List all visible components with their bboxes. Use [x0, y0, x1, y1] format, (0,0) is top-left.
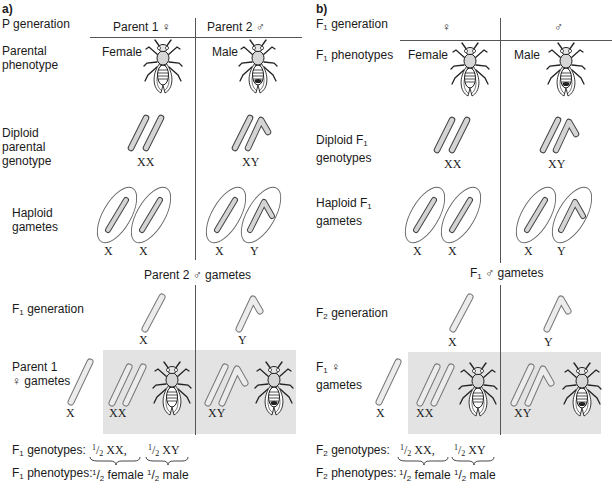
column-header-male: Parent 2 ♂: [207, 20, 265, 34]
female-gamete-x-chromosome-icon: [66, 350, 106, 410]
cross-male-y-label: Y: [544, 335, 553, 350]
xy-chromosome-pair-icon: [540, 110, 590, 160]
offspring-xy-label: XY: [514, 406, 531, 421]
male-label: Male: [212, 45, 238, 59]
panel-a: a) P generation Parent 1 ♀ Parent 2 ♂ Pa…: [0, 0, 304, 496]
cross-male-x-label: X: [139, 333, 148, 348]
cross-female-x-label: X: [376, 406, 385, 421]
panel-letter: b): [316, 2, 327, 16]
genotype-xy: XY: [242, 155, 259, 170]
female-gamete-x1: X: [104, 244, 113, 259]
haploid-gametes-illustration: [98, 178, 298, 250]
summary-genotypes-label: F2 genotypes:: [316, 443, 390, 461]
male-gamete-y: Y: [250, 244, 259, 259]
phenotype-fraction-female: 1/2 female: [399, 466, 451, 486]
column-header-male: ♂: [554, 20, 563, 34]
xy-chromosome-pair-icon: [232, 108, 282, 158]
genotype-xx: XX: [137, 155, 154, 170]
female-fly-icon: [163, 67, 164, 68]
cross-female-row-label: F1 ♀ gametes: [316, 360, 362, 392]
female-label: Female: [408, 48, 448, 62]
cross-male-gametes-header: Parent 2 ♂ gametes: [144, 268, 251, 282]
male-fly-icon: [566, 70, 567, 71]
genotype-xy: XY: [548, 157, 565, 172]
male-gamete-y-chromosome-icon: [234, 285, 274, 335]
male-gamete-x: X: [524, 244, 533, 259]
row-label-haploid: Haploid gametes: [12, 206, 58, 234]
offspring-female-fly-icon: [172, 389, 173, 390]
row-label-phenotype: F1 phenotypes: [316, 48, 393, 66]
phenotype-fraction-male: 1/2 male: [454, 466, 496, 486]
male-label: Male: [514, 48, 540, 62]
male-gamete-x-chromosome-icon: [140, 285, 180, 335]
cross-female-row-label: Parent 1 ♀ gametes: [12, 360, 70, 388]
male-gamete-x: X: [215, 244, 224, 259]
female-gamete-x1: X: [413, 244, 422, 259]
male-gamete-y: Y: [557, 244, 566, 259]
cross-male-x-label: X: [448, 335, 457, 350]
offspring-male-fly-icon: [582, 390, 583, 391]
female-gamete-x2: X: [448, 244, 457, 259]
xx-chromosome-pair-icon: [434, 110, 484, 160]
female-fly-icon: [470, 70, 471, 71]
female-label: Female: [102, 45, 142, 59]
phenotype-fraction-male: 1/2 male: [147, 466, 189, 486]
offspring-generation-label: F2 generation: [316, 306, 388, 324]
panel-b: b) F1 generation ♀ ♂ F1 phenotypes Femal…: [304, 0, 608, 496]
male-gamete-y-chromosome-icon: [542, 285, 582, 335]
cross-male-y-label: Y: [238, 333, 247, 348]
header-rule: [90, 37, 302, 38]
header-rule: [400, 40, 612, 41]
row-label-phenotype: Parental phenotype: [2, 44, 58, 72]
offspring-generation-label: F1 generation: [12, 302, 84, 320]
cross-male-gametes-header: F1 ♂ gametes: [470, 266, 544, 284]
phenotype-fraction-female: 1/2 female: [92, 466, 144, 486]
cell-divider: [500, 352, 501, 435]
row-label-haploid: Haploid F1 gametes: [316, 196, 372, 228]
panel-letter: a): [2, 2, 13, 16]
summary-genotypes-label: F1 genotypes:: [12, 443, 86, 461]
offspring-male-fly-icon: [274, 389, 275, 390]
offspring-xy-label: XY: [208, 406, 225, 421]
offspring-female-fly-icon: [478, 390, 479, 391]
female-gamete-x2: X: [139, 244, 148, 259]
column-header-female: Parent 1 ♀: [113, 20, 171, 34]
row-label-diploid: Diploid F1 genotypes: [316, 133, 371, 165]
genotype-xx: XX: [444, 157, 461, 172]
column-header-female: ♀: [442, 20, 451, 34]
cross-female-x-label: X: [66, 406, 75, 421]
cell-divider: [195, 350, 196, 435]
summary-phenotypes-label: F1 phenotypes:: [12, 466, 93, 484]
offspring-xx-label: XX: [416, 406, 433, 421]
xx-chromosome-pair-icon: [128, 108, 178, 158]
generation-label: P generation: [2, 17, 70, 31]
male-gamete-x-chromosome-icon: [448, 285, 488, 335]
male-fly-icon: [258, 67, 259, 68]
row-label-diploid: Diploid parental genotype: [2, 126, 51, 168]
offspring-xx-label: XX: [109, 406, 126, 421]
generation-label: F1 generation: [316, 17, 388, 35]
haploid-gametes-illustration: [406, 178, 606, 250]
summary-phenotypes-label: F2 phenotypes:: [316, 466, 397, 484]
